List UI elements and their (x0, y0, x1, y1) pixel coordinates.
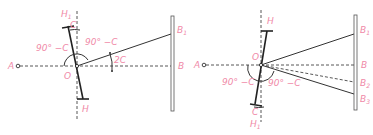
ray-ob1-right (261, 34, 354, 65)
angle-arc-2c (110, 54, 112, 70)
label-c: C (70, 20, 77, 30)
label-h1-right: H1 (250, 119, 261, 130)
label-2c: 2C (114, 55, 127, 65)
label-h-right: H (267, 16, 274, 26)
label-b1: B1 (177, 25, 187, 36)
tilted-plane (68, 26, 83, 99)
left-diagram: A O H1 C H 90° −C 90° −C 2C B1 B (7, 9, 187, 121)
point-o (75, 64, 78, 67)
label-o-right: O (252, 52, 259, 62)
label-a-right: A (193, 60, 200, 70)
label-b1-right: B1 (360, 25, 370, 36)
label-c-right: C (252, 107, 259, 117)
mirror-right (354, 15, 357, 110)
label-b: B (178, 61, 184, 71)
label-h: H (82, 104, 89, 114)
point-o-right (259, 63, 262, 66)
point-a (16, 64, 20, 68)
plane-end-bottom-right (250, 104, 262, 106)
label-b-right: B (361, 60, 367, 70)
mirror-left (171, 16, 174, 111)
right-diagram: A O H C H1 90° −C 90° −C B1 B B2 B3 (193, 10, 370, 130)
label-b2-right: B2 (360, 78, 370, 89)
mirror-reflection-figure: A O H1 C H 90° −C 90° −C 2C B1 B A O H C… (0, 0, 373, 135)
label-angle-right-right: 90° −C (268, 78, 301, 88)
label-b3-right: B3 (360, 94, 370, 105)
label-o: O (64, 71, 71, 81)
label-a: A (7, 61, 14, 71)
label-angle-right: 90° −C (85, 37, 118, 47)
label-angle-left: 90° −C (36, 43, 69, 53)
point-a-right (202, 63, 206, 67)
label-angle-left-right: 90° −C (222, 77, 255, 87)
label-h1: H1 (61, 9, 72, 20)
